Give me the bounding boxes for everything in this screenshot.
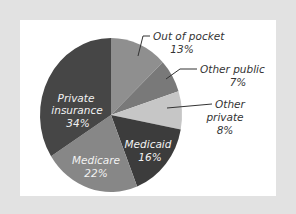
label-private-insurance-line2: insurance — [51, 104, 102, 116]
label-medicare: Medicare — [72, 154, 120, 166]
label-other-public: Other public — [200, 63, 265, 75]
label-medicaid-pct: 16% — [138, 151, 161, 163]
pie-chart: Out of pocket 13% Other public 7% Other … — [0, 0, 296, 214]
label-private-insurance-line1: Private — [58, 92, 95, 104]
label-medicaid: Medicaid — [125, 138, 172, 150]
label-other-private-line2: private — [205, 111, 243, 123]
label-other-public-pct: 7% — [230, 76, 247, 88]
label-other-private-pct: 8% — [217, 124, 234, 136]
label-out-of-pocket: Out of pocket — [153, 30, 225, 42]
label-private-insurance-pct: 34% — [66, 117, 89, 129]
label-other-private-line1: Other — [215, 98, 245, 110]
label-medicare-pct: 22% — [84, 167, 107, 179]
label-out-of-pocket-pct: 13% — [170, 43, 193, 55]
